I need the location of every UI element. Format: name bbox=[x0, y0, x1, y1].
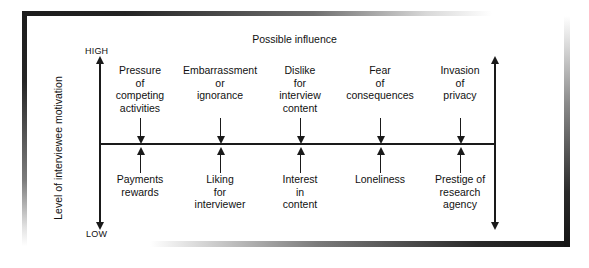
axis-low-label: LOW bbox=[86, 229, 107, 239]
label-line: research bbox=[406, 186, 514, 199]
right-edge-arrowhead-up bbox=[491, 56, 499, 64]
negative-arrowhead-5 bbox=[457, 136, 465, 144]
negative-arrowhead-3 bbox=[297, 136, 305, 144]
positive-arrowhead-1 bbox=[137, 147, 145, 155]
positive-arrowhead-3 bbox=[297, 147, 305, 155]
label-line: content bbox=[246, 102, 354, 115]
label-line: agency bbox=[406, 198, 514, 211]
positive-arrowhead-5 bbox=[457, 147, 465, 155]
chart-title: Possible influence bbox=[0, 33, 589, 45]
negative-arrowhead-2 bbox=[217, 136, 225, 144]
page-frame-top-rule bbox=[22, 11, 492, 16]
positive-factor-label-5: Prestige of research agency bbox=[406, 173, 514, 211]
label-line: Invasion bbox=[406, 64, 514, 77]
y-axis-arrowhead-up bbox=[96, 56, 104, 64]
axis-high-label: HIGH bbox=[85, 46, 108, 56]
negative-arrowhead-1 bbox=[137, 136, 145, 144]
positive-arrowhead-2 bbox=[217, 147, 225, 155]
right-edge-arrowhead-down bbox=[491, 222, 499, 230]
figure-container: Possible influence Level of interviewee … bbox=[0, 0, 589, 268]
page-frame-bottom-rule bbox=[150, 241, 570, 247]
label-line: in bbox=[246, 186, 354, 199]
label-line: content bbox=[246, 198, 354, 211]
label-line: activities bbox=[86, 102, 194, 115]
positive-arrowhead-4 bbox=[377, 147, 385, 155]
y-axis-arrowhead-down bbox=[96, 222, 104, 230]
negative-arrowhead-4 bbox=[377, 136, 385, 144]
label-line: privacy bbox=[406, 89, 514, 102]
negative-factor-label-5: Invasion of privacy bbox=[406, 64, 514, 102]
page-frame-left-rule bbox=[22, 11, 27, 246]
label-line: Prestige of bbox=[406, 173, 514, 186]
label-line: of bbox=[406, 77, 514, 90]
y-axis-title: Level of interviewee motivation bbox=[52, 58, 64, 238]
page-frame-right-rule bbox=[564, 16, 570, 247]
